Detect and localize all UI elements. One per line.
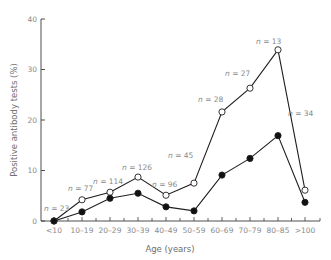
x-tick-label: 30–39 bbox=[127, 226, 150, 235]
y-tick-label: 20 bbox=[27, 116, 37, 125]
x-tick-label: 80–85 bbox=[267, 226, 290, 235]
filled-circle-marker bbox=[247, 155, 253, 161]
sample-size-label: n = 96 bbox=[152, 180, 178, 189]
open-circle-marker bbox=[135, 174, 141, 180]
open-circle-marker bbox=[247, 85, 253, 91]
sample-size-label: n = 28 bbox=[198, 95, 224, 104]
y-tick-label: 10 bbox=[27, 166, 37, 175]
filled-circle-marker bbox=[135, 190, 141, 196]
open-circle-marker bbox=[107, 189, 113, 195]
y-tick-label: 0 bbox=[32, 217, 37, 226]
y-tick-label: 30 bbox=[27, 65, 37, 74]
series-line bbox=[54, 136, 305, 221]
filled-circle-marker bbox=[163, 204, 169, 210]
line-chart: 010203040<1010–1920–2930–3940–4950–5960–… bbox=[0, 0, 331, 260]
x-tick-label: 70–79 bbox=[239, 226, 262, 235]
y-axis-title: Positive antibody tests (%) bbox=[9, 63, 19, 177]
open-circle-marker bbox=[302, 187, 308, 193]
series-lines bbox=[54, 50, 305, 221]
x-tick-label: 50–59 bbox=[183, 226, 206, 235]
x-axis-title: Age (years) bbox=[145, 244, 194, 254]
x-tick-label: <10 bbox=[46, 226, 62, 235]
y-tick-label: 40 bbox=[27, 15, 37, 24]
open-circle-marker bbox=[163, 192, 169, 198]
filled-circle-marker bbox=[302, 199, 308, 205]
sample-size-label: n = 126 bbox=[122, 163, 152, 172]
series-line bbox=[54, 50, 305, 221]
x-tick-label: 40–49 bbox=[155, 226, 178, 235]
filled-circle-marker bbox=[219, 172, 225, 178]
sample-size-label: n = 27 bbox=[225, 69, 251, 78]
open-circle-marker bbox=[275, 47, 281, 53]
open-circle-marker bbox=[79, 197, 85, 203]
sample-size-label: n = 77 bbox=[68, 184, 94, 193]
sample-size-label: n = 114 bbox=[93, 177, 123, 186]
x-tick-label: 60–69 bbox=[211, 226, 234, 235]
filled-circle-marker bbox=[107, 195, 113, 201]
filled-circle-marker bbox=[191, 208, 197, 214]
filled-circle-marker bbox=[51, 218, 57, 224]
x-tick-label: >100 bbox=[295, 226, 316, 235]
x-tick-label: 10–19 bbox=[71, 226, 94, 235]
annotations: n = 23n = 77n = 114n = 126n = 96n = 45n … bbox=[44, 37, 314, 213]
sample-size-label: n = 45 bbox=[168, 151, 194, 160]
filled-circle-marker bbox=[79, 209, 85, 215]
sample-size-label: n = 13 bbox=[256, 37, 282, 46]
sample-size-label: n = 23 bbox=[44, 204, 70, 213]
open-circle-marker bbox=[219, 109, 225, 115]
filled-circle-marker bbox=[275, 133, 281, 139]
open-circle-marker bbox=[191, 180, 197, 186]
sample-size-label: n = 34 bbox=[288, 109, 314, 118]
x-tick-label: 20–29 bbox=[99, 226, 122, 235]
